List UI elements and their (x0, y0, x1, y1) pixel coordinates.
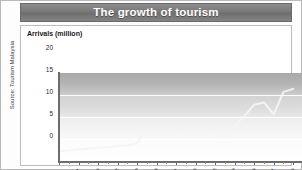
x-tick-label: 1993 (185, 167, 199, 170)
y-tick-label: 5 (39, 110, 53, 117)
x-tick-label: 1989 (146, 167, 160, 170)
x-tick-label: 1997 (224, 167, 238, 170)
source-note: Source: Tourism Malaysia (9, 27, 15, 123)
y-axis-label: Arrivals (million) (27, 30, 82, 37)
page-title: The growth of tourism (93, 7, 219, 19)
x-tick-minor (69, 162, 70, 164)
x-tick-label: 2003 (283, 167, 297, 170)
x-tick-minor (147, 162, 148, 164)
x-tick-minor (88, 162, 89, 164)
x-tick-label: 1981 (68, 167, 82, 170)
x-tick-minor (108, 162, 109, 164)
chart-figure: The growth of tourism Source: Tourism Ma… (0, 0, 302, 170)
x-tick-major (254, 162, 255, 165)
x-tick-minor (244, 162, 245, 164)
x-tick-label: 1991 (166, 167, 180, 170)
y-tick-label: 20 (39, 44, 53, 51)
x-tick-minor (205, 162, 206, 164)
x-tick-major (118, 162, 119, 165)
y-axis (58, 72, 60, 162)
y-tick-label: 15 (39, 66, 53, 73)
x-tick-label: 1995 (205, 167, 219, 170)
x-tick-minor (186, 162, 187, 164)
x-tick-minor (264, 162, 265, 164)
series-arrivals (59, 73, 302, 161)
chart-title-banner: The growth of tourism (20, 3, 292, 22)
x-tick-label: 1983 (87, 167, 101, 170)
chart-panel: Arrivals (million) 05101520 198119831985… (20, 25, 292, 166)
plot-area (59, 73, 302, 161)
x-tick-major (79, 162, 80, 165)
x-tick-label: 1985 (107, 167, 121, 170)
x-tick-minor (283, 162, 284, 164)
x-tick-major (235, 162, 236, 165)
x-tick-major (59, 162, 60, 165)
x-tick-major (274, 162, 275, 165)
x-axis (58, 161, 302, 163)
y-tick-label: 0 (39, 132, 53, 139)
x-tick-major (293, 162, 294, 165)
x-tick-major (157, 162, 158, 165)
series-line-path (59, 89, 293, 151)
x-tick-major (176, 162, 177, 165)
x-tick-major (137, 162, 138, 165)
x-tick-label: 1999 (244, 167, 258, 170)
x-tick-major (196, 162, 197, 165)
x-tick-minor (166, 162, 167, 164)
x-tick-major (98, 162, 99, 165)
x-tick-label: 1987 (126, 167, 140, 170)
y-tick-label: 10 (39, 88, 53, 95)
x-tick-minor (127, 162, 128, 164)
x-tick-major (215, 162, 216, 165)
x-tick-label: 2001 (263, 167, 277, 170)
x-tick-minor (225, 162, 226, 164)
